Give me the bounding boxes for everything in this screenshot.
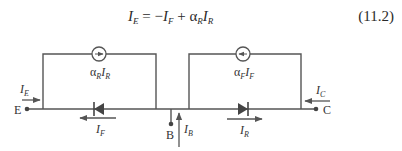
left-diode-icon — [94, 102, 104, 116]
emitter-current-label: IE — [19, 82, 29, 98]
base-label: B — [166, 128, 174, 142]
base-terminal-dot — [169, 122, 174, 127]
right-diode-icon — [238, 102, 248, 116]
emitter-terminal-dot — [25, 107, 30, 112]
right-current-source-icon — [236, 47, 250, 61]
ebers-moll-circuit-diagram: E B C IE IF IR IC IB αRIR αFIF — [0, 0, 402, 151]
right-loop-wire — [189, 54, 301, 109]
reverse-current-label: IR — [239, 123, 249, 139]
left-loop-wire — [43, 54, 156, 109]
left-current-source-icon — [92, 47, 106, 61]
forward-current-label: IF — [95, 122, 105, 138]
collector-label: C — [323, 103, 331, 117]
collector-terminal-dot — [314, 107, 319, 112]
left-source-label: αRIR — [90, 65, 110, 81]
collector-current-label: IC — [315, 83, 326, 99]
base-current-label: IB — [183, 122, 193, 138]
emitter-label: E — [14, 103, 21, 117]
right-source-label: αFIF — [234, 65, 254, 81]
